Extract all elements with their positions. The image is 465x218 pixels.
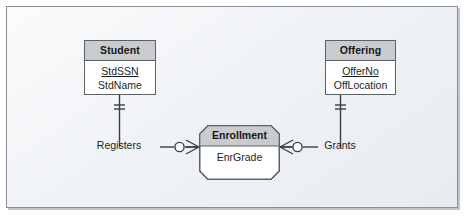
entity-student-name: Student [85,41,155,61]
entity-enrollment-header-fill [200,126,280,146]
attribute-stdname: StdName [85,78,155,92]
entity-offering[interactable]: Offering OfferNo OffLocation [325,40,396,95]
entity-offering-name: Offering [326,41,395,61]
entity-enrollment-shape [199,125,280,180]
er-diagram-canvas: Student StdSSN StdName Offering OfferNo … [0,0,465,218]
entity-student-attributes: StdSSN StdName [85,61,155,92]
entity-student[interactable]: Student StdSSN StdName [84,40,156,95]
attribute-offlocation: OffLocation [326,78,395,92]
relationship-label-registers: Registers [97,139,141,151]
entity-enrollment[interactable]: Enrollment EnrGrade [199,125,280,180]
entity-offering-attributes: OfferNo OffLocation [326,61,395,92]
relationship-label-grants: Grants [324,139,356,151]
attribute-offerno: OfferNo [326,64,395,78]
diagram-frame: Student StdSSN StdName Offering OfferNo … [6,6,458,208]
attribute-stdssn: StdSSN [85,64,155,78]
